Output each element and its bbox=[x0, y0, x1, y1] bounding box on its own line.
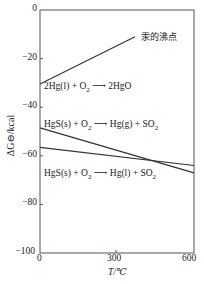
subscript: 2 bbox=[155, 124, 159, 132]
reaction-1-label: 2Hg(l) + O2 ⟶ 2HgO bbox=[44, 80, 131, 94]
y-tick-20: −20 bbox=[7, 52, 37, 62]
boiling-point-annotation: 汞的沸点 bbox=[141, 30, 177, 43]
subscript: 2 bbox=[88, 124, 92, 132]
x-axis-label: T/℃ bbox=[108, 266, 127, 277]
arrow-icon: ⟶ bbox=[94, 168, 108, 178]
reaction-1-left: 2Hg(l) + O bbox=[44, 81, 86, 91]
series-hg-oxidation-line bbox=[40, 37, 135, 84]
reaction-2-left: HgS(s) + O bbox=[44, 119, 88, 129]
x-tick-0: 0 bbox=[37, 253, 42, 263]
arrow-icon: ⟶ bbox=[94, 119, 108, 129]
reaction-3-right: Hg(l) + SO bbox=[110, 168, 153, 178]
y-tick-0: 0 bbox=[7, 3, 37, 13]
y-tick-40: −40 bbox=[7, 100, 37, 110]
subscript: 2 bbox=[86, 86, 90, 94]
subscript: 2 bbox=[153, 173, 157, 181]
y-axis-label: ΔG⊖/kcal bbox=[5, 115, 16, 156]
reaction-3-left: HgS(s) + O bbox=[44, 168, 88, 178]
y-tick-100: −100 bbox=[5, 246, 35, 256]
x-tick-600: 600 bbox=[182, 253, 196, 263]
reaction-2-label: HgS(s) + O2 ⟶ Hg(g) + SO2 bbox=[44, 118, 158, 132]
subscript: 2 bbox=[88, 173, 92, 181]
reaction-2-right: Hg(g) + SO bbox=[110, 119, 155, 129]
x-tick-300: 300 bbox=[107, 253, 121, 263]
arrow-icon: ⟶ bbox=[92, 81, 106, 91]
reaction-1-right: 2HgO bbox=[108, 81, 131, 91]
reaction-3-label: HgS(s) + O2 ⟶ Hg(l) + SO2 bbox=[44, 167, 156, 181]
y-tick-80: −80 bbox=[7, 197, 37, 207]
